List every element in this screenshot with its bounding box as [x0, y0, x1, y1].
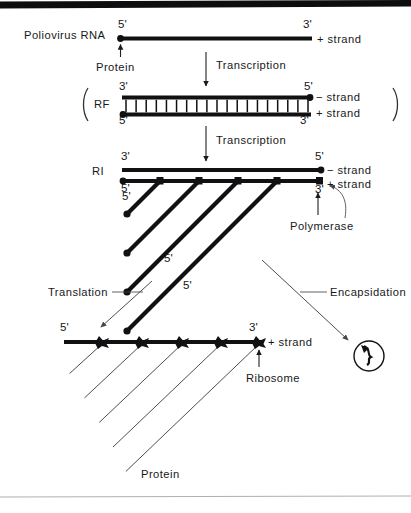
transcription-label-2: Transcription: [216, 134, 286, 146]
transcription-arrow-2-group: Transcription: [206, 126, 286, 161]
ri-minus-right-dot: [318, 167, 325, 174]
ribosome-marker: [252, 336, 266, 349]
ri-nascent-five-prime-label: 5': [183, 279, 192, 291]
nascent-protein-chain: [126, 344, 259, 472]
genome-name-label: Poliovirus RNA: [24, 29, 106, 41]
top-rule: [0, 0, 411, 9]
poliovirus-replication-diagram: Poliovirus RNA 5' 3' + strand Protein Tr…: [0, 0, 411, 513]
translation-arrow: [101, 281, 152, 327]
encapsidation-label: Encapsidation: [330, 286, 406, 298]
ribosome-label: Ribosome: [246, 372, 300, 384]
rf-top-right-prime: 5': [304, 80, 313, 92]
stage-rf: RF 3' 5' 5' 3' − strand + strand: [84, 80, 398, 126]
ri-nascent-strand: [127, 181, 277, 331]
stage-ri: RI 3' 5' 5' 3' 5'5'5' − strand + strand …: [92, 150, 371, 335]
genome-protein-label: Protein: [96, 61, 135, 73]
polymerase-curved-leader: [330, 186, 346, 219]
ri-nascent-strands: 5'5'5': [122, 177, 281, 335]
rf-bracket-close: [393, 88, 398, 121]
ri-top-right-prime: 5': [315, 150, 324, 162]
polysome-five-prime: 5': [60, 321, 69, 333]
polysome-ribosomes: [70, 336, 266, 472]
ri-branch-marker: [196, 177, 203, 185]
ri-branch-marker: [157, 177, 164, 185]
ribosome-marker: [135, 336, 149, 349]
polymerase-label: Polymerase: [290, 220, 354, 232]
encapsidation-arrow: [262, 260, 348, 340]
genome-plus-strand-label: + strand: [317, 33, 361, 45]
ri-nascent-five-prime-dot: [123, 249, 130, 256]
rf-top-left-prime: 3': [119, 80, 128, 92]
bottom-rule: [0, 496, 411, 497]
ri-branch-marker: [274, 177, 281, 185]
ri-nascent-five-prime-dot: [123, 210, 130, 217]
ri-plus-left-dot: [120, 178, 127, 185]
ri-nascent-strand: [127, 181, 199, 253]
transcription-label-1: Transcription: [216, 59, 286, 71]
ri-nascent-five-prime-label: 5': [122, 190, 131, 202]
ribosome-marker: [95, 336, 109, 349]
stage-virion: [354, 341, 384, 371]
ri-nascent-five-prime-dot: [123, 327, 130, 334]
ri-name-label: RI: [92, 165, 104, 177]
figure-root: Poliovirus RNA 5' 3' + strand Protein Tr…: [0, 0, 411, 513]
nascent-protein-chain: [70, 344, 102, 374]
stage-genome: Poliovirus RNA 5' 3' + strand Protein: [24, 18, 361, 73]
ri-nascent-five-prime-label: 5': [164, 252, 173, 264]
genome-five-prime-dot: [117, 35, 124, 42]
ri-top-left-prime: 3': [121, 150, 130, 162]
ri-bottom-right-prime: 3': [315, 183, 324, 195]
nascent-protein-chain: [99, 344, 182, 423]
genome-five-prime-label: 5': [118, 18, 127, 30]
stage-polysome: 5' 3' + strand Ribosome Protein: [60, 321, 312, 480]
ri-plus-strand-label: + strand: [327, 178, 371, 190]
polysome-three-prime: 3': [249, 321, 258, 333]
ri-minus-strand-label: − strand: [327, 164, 371, 176]
encapsidation-arrow-group: Encapsidation: [262, 260, 406, 340]
transcription-arrow-1-group: Transcription: [206, 52, 286, 86]
rf-plus-strand-label: + strand: [316, 107, 360, 119]
rf-name-label: RF: [94, 98, 110, 110]
rf-base-pair-rungs: [126, 100, 308, 112]
polysome-protein-label: Protein: [141, 468, 180, 480]
rf-minus-strand-label: − strand: [316, 91, 360, 103]
rf-bracket-open: [84, 88, 89, 121]
translation-label: Translation: [48, 286, 108, 298]
ribosome-marker: [175, 336, 189, 349]
genome-three-prime-label: 3': [303, 18, 312, 30]
polysome-plus-strand-label: + strand: [268, 336, 312, 348]
ribosome-marker: [214, 336, 228, 349]
polymerase-marker: [316, 177, 323, 185]
ri-nascent-strand: [127, 181, 160, 214]
ri-branch-marker: [235, 177, 242, 185]
